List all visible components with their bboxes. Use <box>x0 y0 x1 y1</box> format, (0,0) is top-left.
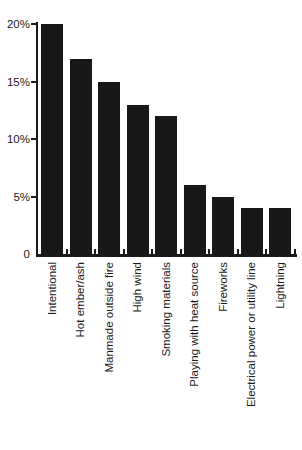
y-tick-label: 20% <box>0 17 30 31</box>
bar <box>98 82 120 255</box>
plot-area: 20%15%10%5%0IntentionalHot ember/ashManm… <box>0 0 302 450</box>
x-category-label: Hot ember/ash <box>74 262 87 337</box>
x-tick <box>66 249 68 254</box>
x-tick <box>151 249 153 254</box>
y-tick <box>31 138 36 140</box>
x-category-label: Fireworks <box>217 262 230 312</box>
x-tick <box>294 249 296 254</box>
x-tick <box>237 249 239 254</box>
bar <box>127 105 149 255</box>
bar <box>269 208 291 254</box>
x-tick <box>265 249 267 254</box>
bar <box>155 116 177 254</box>
x-tick <box>180 249 182 254</box>
x-category-label: Manmade outside fire <box>103 262 116 373</box>
x-tick <box>94 249 96 254</box>
x-category-label: Lightning <box>274 262 287 309</box>
x-category-label: Intentional <box>46 262 59 315</box>
x-category-label: Smoking materials <box>160 262 173 357</box>
y-tick-label: 15% <box>0 75 30 89</box>
bar <box>212 197 234 255</box>
x-category-label: Playing with heat source <box>188 262 201 387</box>
x-axis-line <box>36 254 297 257</box>
y-axis-line <box>36 22 38 257</box>
x-tick <box>208 249 210 254</box>
bar <box>41 24 63 254</box>
x-tick <box>123 249 125 254</box>
x-category-label: High wind <box>131 262 144 313</box>
bar <box>241 208 263 254</box>
bar <box>184 185 206 254</box>
y-tick <box>31 196 36 198</box>
fire-causes-bar-chart: 20%15%10%5%0IntentionalHot ember/ashManm… <box>0 0 302 450</box>
y-tick <box>31 23 36 25</box>
y-tick <box>31 81 36 83</box>
bar <box>70 59 92 255</box>
y-tick-label: 10% <box>0 132 30 146</box>
y-tick-label: 5% <box>0 190 30 204</box>
x-category-label: Electrical power or utility line <box>245 262 258 407</box>
y-tick-label: 0 <box>0 247 30 261</box>
